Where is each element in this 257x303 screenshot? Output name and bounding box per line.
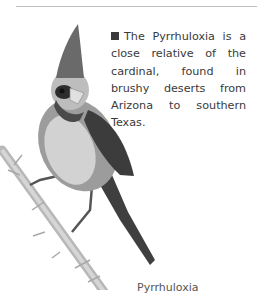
top-rule <box>16 6 257 7</box>
image-caption: Pyrrhuloxia <box>137 281 199 294</box>
bullet-square-icon <box>111 32 119 40</box>
body-text: The Pyrrhuloxia is a close relative of t… <box>111 30 246 129</box>
body-paragraph: The Pyrrhuloxia is a close relative of t… <box>111 28 246 132</box>
